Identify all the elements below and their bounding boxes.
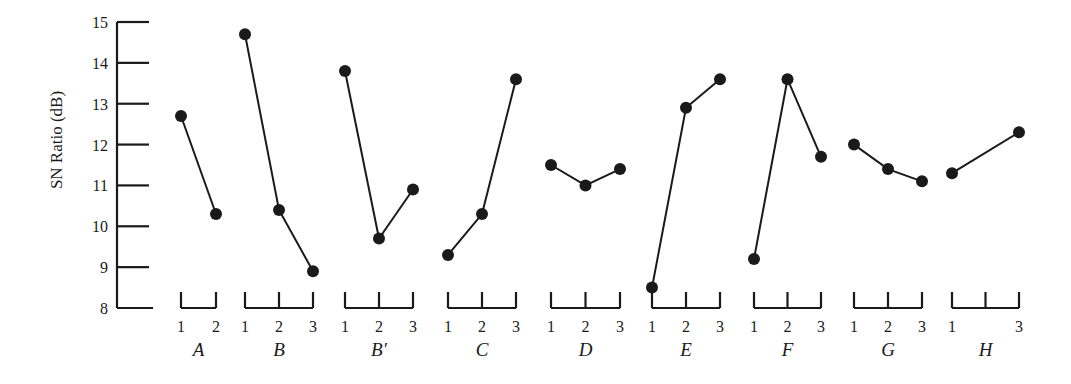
factor-label: F bbox=[781, 339, 794, 360]
y-tick-label: 8 bbox=[100, 300, 108, 317]
effect-line bbox=[181, 116, 216, 214]
level-label: 2 bbox=[375, 318, 383, 335]
factor-label: C bbox=[476, 339, 489, 360]
data-point bbox=[210, 208, 222, 220]
data-point bbox=[848, 139, 860, 151]
effect-line bbox=[952, 132, 1019, 173]
level-label: 3 bbox=[616, 318, 624, 335]
data-point bbox=[273, 204, 285, 216]
data-point bbox=[407, 184, 419, 196]
y-tick-label: 12 bbox=[92, 137, 108, 154]
factor-label: D bbox=[578, 339, 593, 360]
y-tick-label: 10 bbox=[92, 218, 108, 235]
level-label: 3 bbox=[716, 318, 724, 335]
level-label: 2 bbox=[884, 318, 892, 335]
y-tick-label: 9 bbox=[100, 259, 108, 276]
effect-line bbox=[448, 79, 516, 255]
data-point bbox=[646, 282, 658, 294]
data-point bbox=[916, 175, 928, 187]
sn-ratio-factor-effects-chart: 89101112131415 SN Ratio (dB) 12A123B123B… bbox=[0, 0, 1071, 384]
data-point bbox=[680, 102, 692, 114]
level-label: 3 bbox=[409, 318, 417, 335]
data-point bbox=[545, 159, 557, 171]
factor-panels: 12A123B123B′123C123D123E123F123G13H bbox=[175, 28, 1025, 360]
data-point bbox=[307, 265, 319, 277]
effect-line bbox=[245, 34, 313, 271]
effect-line bbox=[345, 71, 413, 239]
data-point bbox=[1013, 126, 1025, 138]
level-label: 2 bbox=[582, 318, 590, 335]
factor-panel-b: 123B bbox=[239, 28, 319, 360]
y-tick-label: 11 bbox=[93, 177, 108, 194]
level-label: 1 bbox=[948, 318, 956, 335]
factor-panel-a: 12A bbox=[175, 110, 222, 360]
effect-line bbox=[754, 79, 821, 259]
factor-panel-d: 123D bbox=[545, 159, 626, 360]
level-label: 1 bbox=[444, 318, 452, 335]
data-point bbox=[239, 28, 251, 40]
level-label: 3 bbox=[512, 318, 520, 335]
level-label: 1 bbox=[341, 318, 349, 335]
factor-panel-e: 123E bbox=[646, 73, 726, 360]
factor-panel-c: 123C bbox=[442, 73, 522, 360]
level-label: 2 bbox=[784, 318, 792, 335]
data-point bbox=[714, 73, 726, 85]
y-axis: 89101112131415 bbox=[92, 14, 153, 317]
level-label: 2 bbox=[275, 318, 283, 335]
data-point bbox=[175, 110, 187, 122]
level-label: 1 bbox=[177, 318, 185, 335]
data-point bbox=[815, 151, 827, 163]
level-label: 3 bbox=[309, 318, 317, 335]
factor-panel-b-prime: 123B′ bbox=[339, 65, 419, 360]
effect-line bbox=[854, 145, 922, 182]
data-point bbox=[782, 73, 794, 85]
y-tick-label: 15 bbox=[92, 14, 108, 31]
level-label: 3 bbox=[918, 318, 926, 335]
data-point bbox=[510, 73, 522, 85]
level-label: 1 bbox=[241, 318, 249, 335]
level-label: 1 bbox=[547, 318, 555, 335]
data-point bbox=[748, 253, 760, 265]
factor-label: G bbox=[881, 339, 895, 360]
data-point bbox=[946, 167, 958, 179]
data-point bbox=[339, 65, 351, 77]
level-label: 2 bbox=[682, 318, 690, 335]
factor-label: E bbox=[679, 339, 692, 360]
factor-label: A bbox=[191, 339, 205, 360]
factor-panel-h: 13H bbox=[946, 126, 1025, 360]
chart-canvas: 89101112131415 SN Ratio (dB) 12A123B123B… bbox=[0, 0, 1071, 384]
data-point bbox=[614, 163, 626, 175]
level-label: 3 bbox=[1015, 318, 1023, 335]
level-label: 1 bbox=[850, 318, 858, 335]
factor-label: B bbox=[273, 339, 285, 360]
data-point bbox=[442, 249, 454, 261]
factor-panel-f: 123F bbox=[748, 73, 827, 360]
y-tick-label: 13 bbox=[92, 96, 108, 113]
y-axis-title: SN Ratio (dB) bbox=[47, 91, 66, 189]
level-label: 2 bbox=[212, 318, 220, 335]
data-point bbox=[373, 233, 385, 245]
factor-panel-g: 123G bbox=[848, 139, 928, 360]
level-label: 1 bbox=[648, 318, 656, 335]
factor-label: H bbox=[978, 339, 994, 360]
data-point bbox=[882, 163, 894, 175]
data-point bbox=[476, 208, 488, 220]
level-label: 2 bbox=[478, 318, 486, 335]
level-label: 1 bbox=[750, 318, 758, 335]
data-point bbox=[580, 179, 592, 191]
level-label: 3 bbox=[817, 318, 825, 335]
factor-label: B′ bbox=[371, 339, 388, 360]
y-tick-label: 14 bbox=[92, 55, 108, 72]
